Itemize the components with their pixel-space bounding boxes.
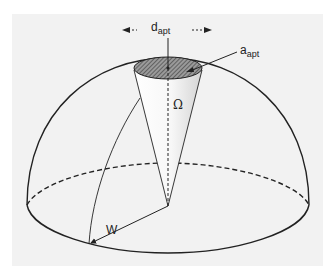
hemisphere-diagram [0,0,335,278]
area-label-sub: apt [247,49,260,59]
aperture-center-dot [166,66,169,69]
solid-angle-label: Ω [173,99,183,111]
radius-label: W [106,224,117,236]
diameter-label-main: d [151,20,158,34]
diameter-label-sub: apt [158,26,171,36]
diameter-arrow-left-icon [122,27,130,33]
diameter-label: dapt [151,21,170,36]
diameter-arrow-right-icon [204,27,212,33]
area-leader-line [190,52,237,71]
area-label: aapt [240,44,259,59]
radius-arrow [91,206,168,243]
equator-front [27,205,309,253]
area-label-main: a [240,43,247,57]
